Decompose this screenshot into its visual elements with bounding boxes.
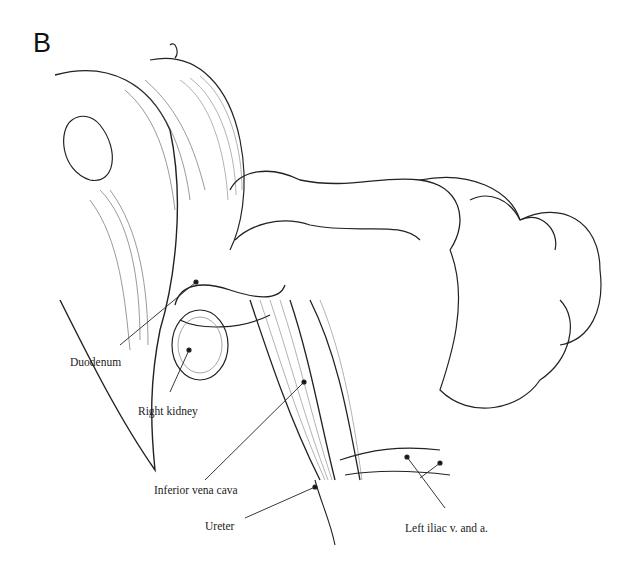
label-inferior-vena-cava: Inferior vena cava: [154, 484, 238, 496]
anatomical-illustration: [0, 0, 630, 580]
label-right-kidney: Right kidney: [138, 405, 198, 417]
label-ureter: Ureter: [205, 520, 234, 532]
label-duodenum: Duodenum: [70, 356, 121, 368]
label-left-iliac: Left iliac v. and a.: [405, 522, 488, 534]
